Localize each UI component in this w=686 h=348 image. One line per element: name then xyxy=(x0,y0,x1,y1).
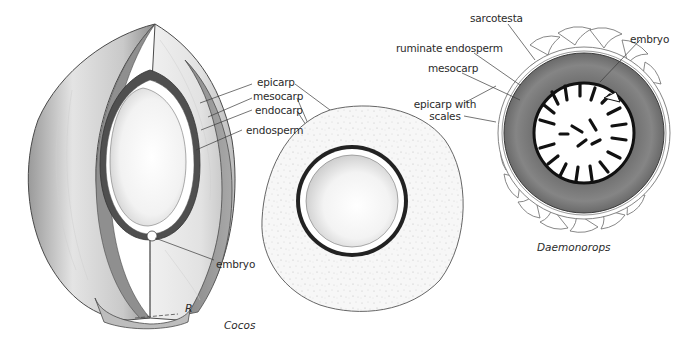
label-daemonorops-mesocarp: mesocarp xyxy=(428,62,478,74)
label-cocos-endocarp: endocarp xyxy=(255,104,303,116)
label-daemonorops-epicarp-line2: scales xyxy=(429,110,460,122)
cocos-embryo xyxy=(147,231,157,241)
label-daemonorops-ruminate-endosperm: ruminate endosperm xyxy=(396,42,503,54)
cocos-whole-fruit xyxy=(28,24,235,329)
cocos-cross-section xyxy=(262,106,463,311)
label-cocos-embryo: embryo xyxy=(216,258,255,270)
label-daemonorops-sarcotesta: sarcotesta xyxy=(470,12,523,24)
artist-signature: R xyxy=(185,302,193,315)
label-daemonorops-epicarp-line1: epicarp with xyxy=(414,98,476,110)
caption-cocos: Cocos xyxy=(224,319,255,331)
fruit-anatomy-diagram: epicarp mesocarp endocarp endosperm embr… xyxy=(0,0,686,348)
label-cocos-endosperm: endosperm xyxy=(246,124,303,136)
label-daemonorops-embryo: embryo xyxy=(630,33,669,45)
label-cocos-mesocarp: mesocarp xyxy=(253,90,303,102)
daemonorops-cross-section xyxy=(498,27,670,233)
label-cocos-epicarp: epicarp xyxy=(257,76,295,88)
caption-daemonorops: Daemonorops xyxy=(537,241,611,253)
label-daemonorops-epicarp: epicarp with scales xyxy=(409,98,481,122)
diagram-canvas xyxy=(0,0,686,348)
